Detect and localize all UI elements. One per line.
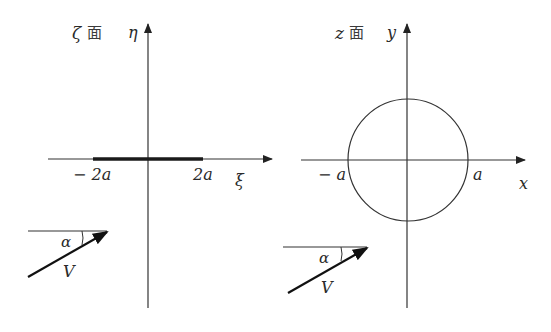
z-plane-label: z [334,23,345,43]
alpha-label: α [319,249,329,267]
velocity-label: V [321,278,334,297]
zeta-plane-label: ζ [72,23,83,43]
zeta-plane-panel: ζ 面 η ξ − 2a 2a α V [28,23,272,308]
zeta-plane-suffix: 面 [87,24,102,42]
z-plane-panel: z 面 y x − a a α V [283,23,528,308]
minus-a-label: − a [318,165,346,184]
minus-2a-label: − 2a [73,165,111,184]
y-axis-label: y [386,23,397,42]
xi-axis-label: ξ [235,171,245,190]
2a-label: 2a [192,165,213,184]
a-label: a [473,165,483,184]
angle-arc [82,231,83,245]
freestream-velocity-right: α V [283,247,367,297]
freestream-velocity-left: α V [28,231,107,281]
x-axis-label: x [519,174,528,193]
z-plane-suffix: 面 [349,24,364,42]
conformal-map-diagram: ζ 面 η ξ − 2a 2a α V z 面 y x − a a α V [0,0,551,332]
alpha-label: α [61,233,71,251]
eta-axis-label: η [128,23,138,42]
velocity-label: V [63,262,76,281]
angle-arc [341,247,342,261]
